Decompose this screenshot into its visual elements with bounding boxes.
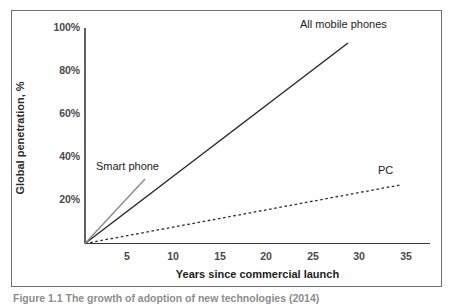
series-label-all-mobile-phones: All mobile phones bbox=[300, 18, 387, 30]
y-axis-title: Global penetration, % bbox=[14, 63, 26, 213]
x-tick-label-30: 30 bbox=[344, 250, 374, 262]
y-tick-label-40: 40% bbox=[32, 151, 80, 162]
series-label-smart-phone: Smart phone bbox=[96, 160, 159, 172]
x-tick-label-20: 20 bbox=[251, 250, 281, 262]
x-axis-title: Years since commercial launch bbox=[85, 268, 430, 280]
series-line-all-mobile-phones bbox=[85, 43, 348, 244]
x-tick-label-25: 25 bbox=[298, 250, 328, 262]
x-tick-label-35: 35 bbox=[391, 250, 421, 262]
x-tick-label-15: 15 bbox=[205, 250, 235, 262]
series-label-pc: PC bbox=[378, 164, 393, 176]
y-tick-label-20: 20% bbox=[32, 194, 80, 205]
series-line-pc bbox=[85, 185, 400, 244]
x-tick-label-5: 5 bbox=[112, 250, 142, 262]
y-tick-label-80: 80% bbox=[32, 65, 80, 76]
y-tick-label-60: 60% bbox=[32, 108, 80, 119]
x-tick-label-10: 10 bbox=[158, 250, 188, 262]
series-line-smart-phone bbox=[85, 179, 145, 244]
y-tick-label-100: 100% bbox=[32, 22, 80, 33]
y-axis-tick-labels: 100% 80% 60% 40% 20% bbox=[28, 0, 80, 301]
figure-caption: Figure 1.1 The growth of adoption of new… bbox=[13, 292, 443, 304]
